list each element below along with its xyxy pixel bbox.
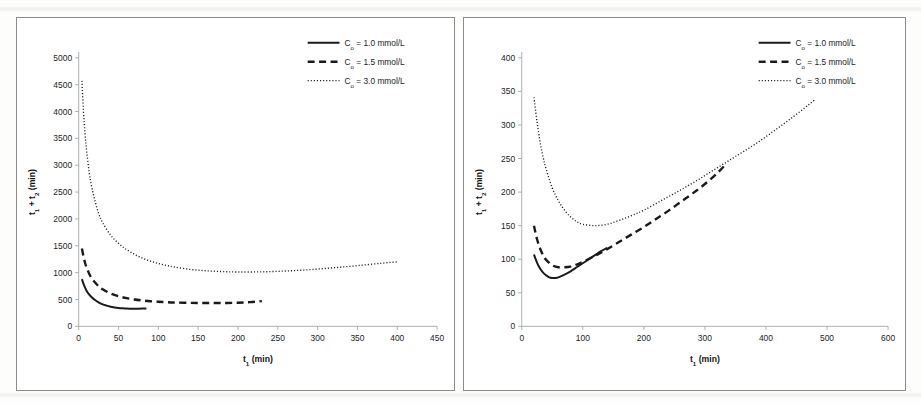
y-tick-label: 0 (510, 321, 515, 331)
series-line-3 (82, 81, 397, 272)
x-tick-label: 150 (191, 333, 205, 343)
x-tick-label: 200 (637, 333, 651, 343)
x-tick-label: 300 (698, 333, 712, 343)
chart-legend: Co = 1.0 mmol/LCo = 1.5 mmol/LCo = 3.0 m… (308, 38, 405, 88)
x-tick-label: 450 (430, 333, 444, 343)
legend-label-3: Co = 3.0 mmol/L (795, 76, 856, 88)
y-tick-label: 300 (501, 120, 515, 130)
y-tick-label: 4500 (53, 80, 72, 90)
y-tick-label: 400 (501, 53, 515, 63)
x-tick-label: 350 (350, 333, 364, 343)
x-tick-label: 400 (759, 333, 773, 343)
left-chart-panel: 0500100015002000250030003500400045005000… (16, 17, 455, 391)
legend-label-2: Co = 1.5 mmol/L (345, 57, 406, 69)
right-chart-panel: 0501001502002503003504000100200300400500… (463, 17, 906, 391)
y-axis-title: t1 + t2 (min) (27, 169, 40, 215)
x-tick-label: 500 (820, 333, 834, 343)
x-tick-label: 250 (271, 333, 285, 343)
y-tick-label: 200 (501, 187, 515, 197)
series-line-1 (534, 248, 607, 278)
y-tick-label: 0 (67, 321, 72, 331)
y-tick-label: 2500 (53, 187, 72, 197)
y-tick-label: 350 (501, 86, 515, 96)
y-tick-label: 50 (506, 288, 516, 298)
y-axis-title: t1 + t2 (min) (474, 169, 487, 215)
x-tick-label: 600 (881, 333, 895, 343)
figure-panel-container: 0500100015002000250030003500400045005000… (0, 0, 921, 404)
x-axis-title: t1 (min) (243, 354, 273, 366)
x-tick-label: 50 (114, 333, 124, 343)
y-tick-label: 100 (501, 254, 515, 264)
series-line-2 (82, 248, 262, 303)
y-tick-label: 150 (501, 221, 515, 231)
y-tick-label: 1000 (53, 268, 72, 278)
y-tick-label: 3500 (53, 133, 72, 143)
y-tick-label: 5000 (53, 53, 72, 63)
y-tick-label: 3000 (53, 160, 72, 170)
y-tick-label: 2000 (53, 214, 72, 224)
y-tick-label: 4000 (53, 107, 72, 117)
chart-legend: Co = 1.0 mmol/LCo = 1.5 mmol/LCo = 3.0 m… (759, 38, 856, 88)
x-tick-label: 100 (151, 333, 165, 343)
x-tick-label: 100 (576, 333, 590, 343)
y-tick-label: 1500 (53, 241, 72, 251)
y-tick-label: 500 (58, 295, 72, 305)
legend-label-2: Co = 1.5 mmol/L (795, 57, 856, 69)
x-tick-label: 400 (390, 333, 404, 343)
x-tick-label: 200 (231, 333, 245, 343)
legend-label-1: Co = 1.0 mmol/L (345, 38, 406, 50)
left-chart-svg: 0500100015002000250030003500400045005000… (17, 18, 454, 390)
series-line-2 (534, 164, 726, 268)
x-tick-label: 300 (311, 333, 325, 343)
y-tick-label: 250 (501, 154, 515, 164)
x-tick-label: 0 (76, 333, 81, 343)
x-tick-label: 0 (519, 333, 524, 343)
legend-label-3: Co = 3.0 mmol/L (345, 76, 406, 88)
legend-label-1: Co = 1.0 mmol/L (795, 38, 856, 50)
right-chart-svg: 0501001502002503003504000100200300400500… (464, 18, 905, 390)
x-axis-title: t1 (min) (690, 354, 720, 366)
